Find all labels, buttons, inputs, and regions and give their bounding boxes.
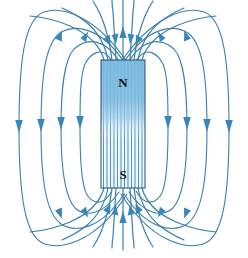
magnet-body [101, 60, 145, 188]
arrowhead-left-third [57, 117, 65, 130]
arrowhead-right-outer [225, 120, 233, 133]
field-line-bottom-9 [142, 188, 216, 232]
arrowhead-left-second [37, 119, 45, 132]
arrowhead-bottom-9 [184, 208, 191, 219]
arrowhead-top-2 [81, 32, 89, 43]
field-line-top-4 [112, 0, 116, 60]
arrowhead-right-second [203, 119, 211, 132]
field-line-top-1 [30, 16, 104, 60]
arrowhead-bottom-1 [55, 208, 62, 219]
magnet-gradient-overlay [101, 60, 145, 188]
arrowhead-top-3 [103, 35, 110, 46]
field-lines-canvas [0, 0, 248, 258]
arrowhead-bottom-5 [119, 211, 126, 223]
field-line-top-3 [93, 1, 112, 60]
arrowhead-right-inner [164, 116, 172, 129]
arrowhead-right-third [183, 117, 191, 130]
arrowhead-top-8 [158, 32, 166, 43]
arrowhead-left-inner [76, 116, 84, 129]
field-line-bottom-1 [30, 188, 104, 232]
field-line-bottom-4 [112, 188, 116, 248]
arrowhead-left-outer [15, 120, 23, 133]
bar-magnet-field-diagram: N S [0, 0, 248, 258]
arrowhead-top-5 [119, 26, 126, 38]
